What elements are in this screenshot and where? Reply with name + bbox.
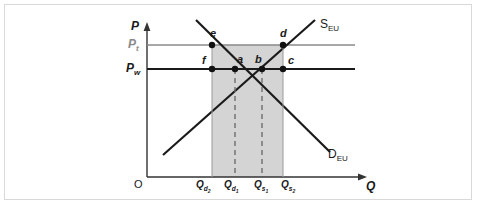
- quantity-label-qs2: Qs2: [281, 180, 295, 194]
- shaded-tariff-region: [212, 45, 283, 177]
- diagram-canvas: [0, 0, 478, 205]
- point-marker-a: [232, 66, 238, 72]
- x-axis-label: Q: [366, 180, 375, 192]
- quantity-qs1-base: Q: [254, 179, 262, 190]
- y-axis-arrow: [144, 22, 151, 31]
- demand-curve-label: DEU: [328, 148, 348, 163]
- world-price-subscript: w: [134, 68, 140, 77]
- quantity-qs2-sub: s2: [289, 185, 295, 192]
- supply-curve-letter: S: [320, 17, 328, 31]
- point-label-a: a: [237, 54, 243, 65]
- quantity-qd2-sub-number: 2: [208, 188, 211, 194]
- quantity-qd2-base: Q: [196, 179, 204, 190]
- y-axis-label: P: [131, 20, 139, 32]
- point-marker-d: [280, 42, 286, 48]
- demand-curve-subscript: EU: [337, 154, 348, 163]
- point-marker-b: [259, 66, 265, 72]
- point-label-c: c: [288, 55, 294, 66]
- origin-label: O: [134, 179, 143, 190]
- quantity-qd1-base: Q: [224, 179, 232, 190]
- quantity-qs1-sub: s1: [262, 185, 268, 192]
- tariff-price-letter: P: [128, 37, 136, 51]
- quantity-label-qs1: Qs1: [254, 180, 268, 194]
- demand-curve-letter: D: [328, 147, 337, 161]
- point-label-b: b: [255, 54, 262, 65]
- quantity-qs2-base: Q: [281, 179, 289, 190]
- quantity-qd2-sub: d2: [204, 185, 211, 192]
- point-marker-f: [209, 66, 215, 72]
- quantity-qs1-sub-number: 1: [265, 188, 268, 194]
- quantity-qd1-sub: d1: [232, 185, 239, 192]
- point-label-f: f: [202, 55, 206, 66]
- quantity-qd1-sub-number: 1: [236, 188, 239, 194]
- quantity-qs2-sub-number: 2: [292, 188, 295, 194]
- world-price-label: Pw: [126, 62, 140, 77]
- figure-container: P Q O Pt Pw SEU DEU e d f a b c Qd2 Qd1 …: [0, 0, 478, 205]
- point-label-d: d: [280, 28, 287, 39]
- point-marker-c: [280, 66, 286, 72]
- world-price-letter: P: [126, 61, 134, 75]
- tariff-price-subscript: t: [136, 44, 139, 53]
- supply-curve-label: SEU: [320, 18, 339, 33]
- point-label-e: e: [210, 28, 216, 39]
- supply-curve-subscript: EU: [328, 24, 339, 33]
- quantity-label-qd1: Qd1: [224, 180, 239, 194]
- quantity-label-qd2: Qd2: [196, 180, 211, 194]
- point-marker-e: [209, 42, 215, 48]
- tariff-price-label: Pt: [128, 38, 139, 53]
